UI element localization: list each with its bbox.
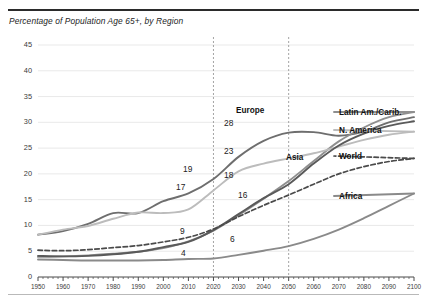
value-label-6: 6 [230,234,235,244]
y-axis-tick-5: 5 [16,246,32,255]
y-axis-tick-30: 30 [16,117,32,126]
x-axis-tick-2020: 2020 [201,283,225,290]
y-axis-tick-15: 15 [16,195,32,204]
value-label-16: 16 [238,190,247,200]
series-line-africa [38,193,414,260]
series-label-africa: Africa [339,192,362,201]
value-label-18: 18 [224,170,233,180]
line-chart-plot [0,0,427,303]
x-axis-tick-1980: 1980 [101,283,125,290]
value-label-19: 19 [183,164,192,174]
value-label-4: 4 [181,248,186,258]
series-label-europe: Europe [236,106,264,115]
x-axis-tick-1970: 1970 [76,283,100,290]
x-axis-tick-1990: 1990 [126,283,150,290]
x-axis-ticks [38,277,414,281]
y-axis-tick-10: 10 [16,220,32,229]
x-axis-tick-1950: 1950 [26,283,50,290]
figure: Percentage of Population Age 65+, by Reg… [0,0,427,303]
value-label-9: 9 [180,226,185,236]
x-axis-tick-2000: 2000 [151,283,175,290]
series-label-namerica: N. America [339,126,381,135]
value-label-23: 23 [224,146,233,156]
vertical-markers [213,37,288,277]
y-axis-tick-45: 45 [16,40,32,49]
value-label-17: 17 [176,182,185,192]
x-axis-tick-2050: 2050 [277,283,301,290]
x-axis-tick-2100: 2100 [402,283,426,290]
series-label-world: World [339,152,362,161]
y-axis-tick-40: 40 [16,66,32,75]
x-axis-tick-2010: 2010 [176,283,200,290]
y-axis-tick-25: 25 [16,143,32,152]
y-axis-tick-0: 0 [16,272,32,281]
x-axis-tick-2030: 2030 [227,283,251,290]
series-label-latin: Latin Am./Carib. [339,108,401,117]
x-axis-tick-2040: 2040 [252,283,276,290]
x-axis-tick-2080: 2080 [352,283,376,290]
x-axis-tick-1960: 1960 [51,283,75,290]
x-axis-tick-2090: 2090 [377,283,401,290]
y-axis-tick-35: 35 [16,92,32,101]
x-axis-tick-2070: 2070 [327,283,351,290]
y-axis-tick-20: 20 [16,169,32,178]
value-label-28: 28 [224,118,233,128]
series-label-asia: Asia [286,153,303,162]
x-axis-tick-2060: 2060 [302,283,326,290]
